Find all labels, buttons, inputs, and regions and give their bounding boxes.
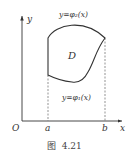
tick-label-a: a	[45, 123, 50, 133]
figure-canvas: y x O a b D y=φ₂(x) y=φ₁(x) 图 4.21	[0, 0, 139, 156]
upper-curve-label: y=φ₂(x)	[58, 10, 88, 19]
origin-label: O	[12, 123, 20, 133]
region-label: D	[67, 50, 76, 61]
x-axis-label: x	[120, 123, 125, 133]
region-d-boundary	[48, 25, 105, 82]
lower-curve-label: y=φ₁(x)	[61, 93, 91, 102]
y-axis-label: y	[26, 14, 33, 24]
figure-caption: 图 4.21	[47, 141, 82, 151]
tick-label-b: b	[102, 123, 108, 133]
